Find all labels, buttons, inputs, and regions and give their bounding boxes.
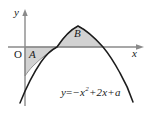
figure-canvas	[0, 0, 147, 117]
parabola-figure: y x O A B y=−x2+2x+a	[0, 0, 147, 117]
y-axis-label: y	[14, 7, 19, 18]
equation-term-1: −x	[73, 86, 86, 98]
origin-label: O	[14, 49, 22, 60]
x-axis-label: x	[132, 48, 137, 59]
equation-term-3: +a	[107, 86, 120, 98]
region-b-label: B	[74, 28, 81, 39]
region-a-label: A	[29, 49, 36, 60]
y-axis-arrowhead	[22, 9, 27, 16]
curve-equation-label: y=−x2+2x+a	[61, 86, 121, 98]
equation-term-2: +2x	[89, 86, 107, 98]
x-axis-arrowhead	[136, 44, 144, 50]
